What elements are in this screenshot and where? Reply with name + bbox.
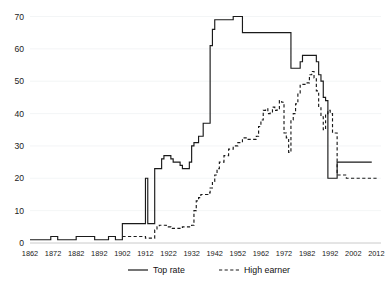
x-tick-1982: 1982 [299, 249, 315, 258]
x-tick-1922: 1922 [160, 249, 176, 258]
x-tick-1892: 1892 [91, 249, 107, 258]
y-tick-30: 30 [14, 141, 24, 151]
chart-canvas: 010203040506070 186218721882189219021912… [0, 0, 391, 284]
x-tick-1952: 1952 [230, 249, 246, 258]
y-tick-40: 40 [14, 109, 24, 119]
x-tick-2012: 2012 [368, 249, 384, 258]
y-tick-20: 20 [14, 173, 24, 183]
x-tick-1882: 1882 [68, 249, 84, 258]
legend-label-top-rate: Top rate [153, 265, 185, 275]
x-tick-1862: 1862 [22, 249, 38, 258]
chart-background [0, 0, 391, 284]
y-tick-60: 60 [14, 44, 24, 54]
x-tick-1902: 1902 [114, 249, 130, 258]
x-tick-1962: 1962 [253, 249, 269, 258]
tax-rate-line-chart: 010203040506070 186218721882189219021912… [0, 0, 391, 284]
x-tick-1992: 1992 [322, 249, 338, 258]
x-tick-1912: 1912 [137, 249, 153, 258]
x-tick-1942: 1942 [207, 249, 223, 258]
x-tick-1972: 1972 [276, 249, 292, 258]
legend-label-high-earner: High earner [244, 265, 290, 275]
y-tick-10: 10 [14, 206, 24, 216]
y-tick-0: 0 [19, 238, 24, 248]
y-tick-50: 50 [14, 76, 24, 86]
x-tick-2002: 2002 [345, 249, 361, 258]
y-tick-70: 70 [14, 12, 24, 22]
x-tick-1932: 1932 [183, 249, 199, 258]
x-tick-1872: 1872 [45, 249, 61, 258]
